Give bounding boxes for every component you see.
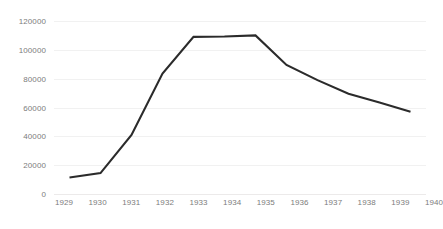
x-axis-tick-label: 1934 xyxy=(223,198,241,207)
y-axis-tick-label: 40000 xyxy=(23,132,46,141)
x-axis-tick-label: 1939 xyxy=(391,198,409,207)
plot-area xyxy=(54,21,426,194)
x-axis-tick-label: 1935 xyxy=(257,198,275,207)
y-axis-tick-label: 100000 xyxy=(19,45,46,54)
x-axis-tick-label: 1938 xyxy=(358,198,376,207)
y-axis-tick-label: 60000 xyxy=(23,103,46,112)
gridline-0 xyxy=(54,194,426,195)
x-axis: 1929 1930 1931 1932 1933 1934 1935 1936 … xyxy=(54,198,426,216)
x-axis-tick-label: 1930 xyxy=(88,198,106,207)
x-axis-tick-label: 1933 xyxy=(189,198,207,207)
x-axis-tick-label: 1936 xyxy=(290,198,308,207)
y-axis-tick-label: 20000 xyxy=(23,161,46,170)
x-axis-tick-label: 1929 xyxy=(55,198,73,207)
y-axis-tick-label: 80000 xyxy=(23,74,46,83)
x-axis-tick-label: 1931 xyxy=(122,198,140,207)
x-axis-tick-label: 1932 xyxy=(156,198,174,207)
y-axis-tick-label: 0 xyxy=(41,190,46,199)
series-line-path xyxy=(70,35,411,177)
x-axis-tick-label: 1940 xyxy=(425,198,443,207)
y-axis: 120000 100000 80000 60000 40000 20000 0 xyxy=(0,0,50,229)
y-axis-tick-label: 120000 xyxy=(19,17,46,26)
x-axis-tick-label: 1937 xyxy=(324,198,342,207)
series-line-svg xyxy=(54,21,426,194)
